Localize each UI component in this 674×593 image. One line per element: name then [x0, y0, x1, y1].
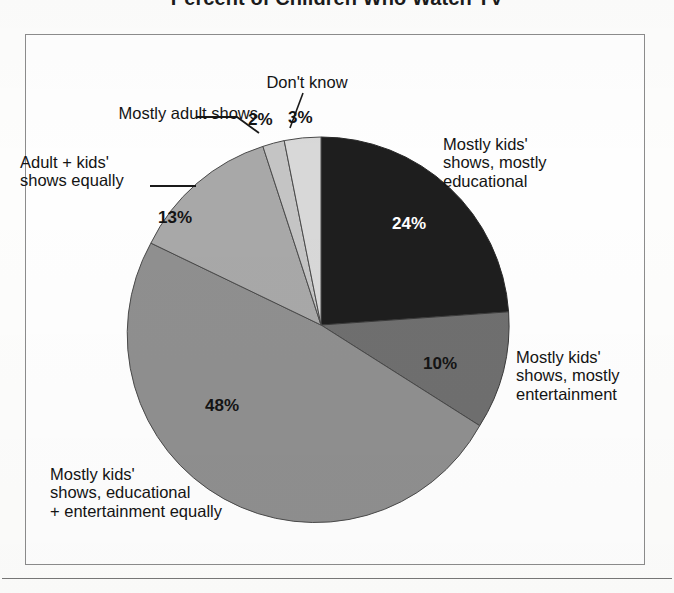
slice-value-mostly-kids-entertainment: 10%: [423, 354, 457, 374]
slice-value-mostly-kids-both: 48%: [205, 396, 239, 416]
slice-value-mostly-adult-shows: 2%: [248, 110, 273, 130]
slice-label-adult-kids-equally: Adult + kids' shows equally: [20, 153, 200, 190]
slice-label-mostly-adult-shows: Mostly adult shows: [28, 104, 258, 122]
footer-divider: [2, 578, 672, 579]
slice-label-dont-know: Don't know: [232, 73, 382, 91]
page-title: Percent of Children Who Watch TV: [0, 0, 674, 10]
slice-label-mostly-kids-both: Mostly kids' shows, educational + entert…: [50, 465, 310, 520]
chart-page: Percent of Children Who Watch TV Don't k…: [0, 0, 674, 593]
slice-label-mostly-kids-educational: Mostly kids' shows, mostly educational: [443, 135, 633, 190]
slice-value-adult-kids-equally: 13%: [158, 208, 192, 228]
slice-label-mostly-kids-entertainment: Mostly kids' shows, mostly entertainment: [516, 348, 674, 403]
slice-value-mostly-kids-educational: 24%: [392, 214, 426, 234]
slice-value-dont-know: 3%: [288, 108, 313, 128]
